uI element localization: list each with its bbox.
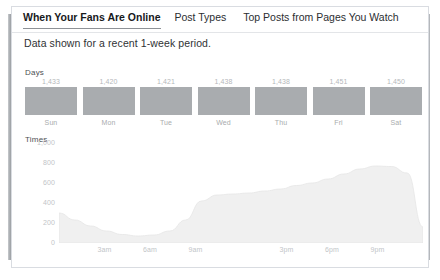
times-x-tick: 3am: [98, 245, 112, 254]
times-y-tick: 600: [43, 179, 55, 187]
day-column-mon[interactable]: 1,420 Mon: [83, 77, 135, 129]
day-value: 1,450: [387, 77, 405, 87]
day-bar[interactable]: [313, 87, 365, 115]
day-column-fri[interactable]: 1,451 Fri: [313, 77, 365, 129]
times-x-tick: 6am: [143, 245, 157, 254]
day-column-sun[interactable]: 1,433 Sun: [25, 77, 77, 129]
day-bar[interactable]: [370, 87, 422, 115]
day-label: Sun: [45, 118, 58, 127]
day-column-tue[interactable]: 1,421 Tue: [140, 77, 192, 129]
times-x-axis: 3am6am9am3pm6pm9pm: [59, 245, 423, 257]
day-value: 1,451: [329, 77, 347, 87]
day-label: Wed: [216, 118, 231, 127]
times-y-axis: 1,0008006004002000: [25, 143, 55, 243]
times-y-tick: 400: [43, 199, 55, 207]
times-area-chart: 1,0008006004002000 3am6am9am3pm6pm9pm: [25, 143, 425, 259]
day-value: 1,433: [42, 77, 60, 87]
day-bar[interactable]: [140, 87, 192, 115]
times-y-tick: 200: [43, 219, 55, 227]
tab-bar: When Your Fans Are Online Post Types Top…: [12, 7, 428, 33]
tab-top-posts-from-pages-you-watch[interactable]: Top Posts from Pages You Watch: [243, 11, 398, 28]
day-label: Mon: [102, 118, 116, 127]
period-description: Data shown for a recent 1-week period.: [24, 37, 211, 49]
day-bar[interactable]: [25, 87, 77, 115]
day-bar[interactable]: [255, 87, 307, 115]
tab-when-your-fans-are-online[interactable]: When Your Fans Are Online: [23, 11, 161, 29]
days-bar-chart: 1,433 Sun 1,420 Mon 1,421 Tue 1,438 Wed …: [25, 77, 422, 129]
times-area-svg: [59, 143, 423, 243]
day-value: 1,420: [99, 77, 117, 87]
times-x-tick: 9pm: [371, 245, 385, 254]
times-x-tick: 3pm: [280, 245, 294, 254]
times-y-tick: 1,000: [37, 139, 55, 147]
times-plot-area[interactable]: [59, 143, 423, 243]
page-insights-card: When Your Fans Are Online Post Types Top…: [11, 6, 429, 268]
day-column-wed[interactable]: 1,438 Wed: [198, 77, 250, 129]
day-label: Fri: [334, 118, 342, 127]
day-label: Sat: [391, 118, 402, 127]
tab-post-types[interactable]: Post Types: [175, 11, 227, 28]
days-section-label: Days: [25, 68, 44, 77]
times-area-fill: [59, 166, 423, 243]
day-label: Thu: [275, 118, 287, 127]
day-label: Tue: [160, 118, 172, 127]
day-value: 1,438: [272, 77, 290, 87]
day-column-sat[interactable]: 1,450 Sat: [370, 77, 422, 129]
times-x-tick: 6pm: [325, 245, 339, 254]
day-bar[interactable]: [198, 87, 250, 115]
times-y-tick: 800: [43, 159, 55, 167]
day-value: 1,438: [214, 77, 232, 87]
times-y-tick: 0: [51, 239, 55, 247]
times-x-tick: 9am: [189, 245, 203, 254]
day-bar[interactable]: [83, 87, 135, 115]
day-value: 1,421: [157, 77, 175, 87]
day-column-thu[interactable]: 1,438 Thu: [255, 77, 307, 129]
